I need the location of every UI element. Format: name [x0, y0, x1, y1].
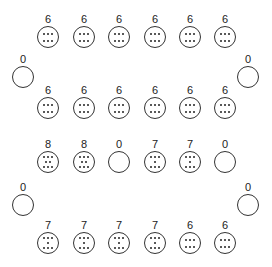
left-store	[12, 194, 34, 216]
seed-icon	[193, 40, 195, 42]
seed-icon	[87, 40, 89, 42]
seed-icon	[154, 33, 156, 35]
pit	[73, 151, 95, 173]
seed-icon	[79, 237, 81, 239]
seed-icon	[83, 33, 85, 35]
seed-count: 0	[13, 182, 33, 193]
seed-count: 7	[145, 220, 165, 231]
pit	[179, 232, 201, 254]
seed-icon	[47, 40, 49, 42]
seed-icon	[83, 237, 85, 239]
seed-icon	[87, 156, 89, 158]
seed-icon	[220, 104, 222, 106]
seed-icon	[85, 161, 87, 163]
seed-icon	[87, 247, 89, 249]
seed-icon	[51, 237, 53, 239]
seed-count: 0	[215, 139, 235, 150]
seed-icon	[193, 104, 195, 106]
seed-icon	[185, 156, 187, 158]
seed-icon	[49, 161, 51, 163]
seed-icon	[114, 237, 116, 239]
seed-icon	[51, 247, 53, 249]
seed-count: 0	[109, 139, 129, 150]
seed-icon	[228, 40, 230, 42]
seed-icon	[114, 247, 116, 249]
seed-icon	[79, 247, 81, 249]
seed-icon	[47, 156, 49, 158]
seed-icon	[83, 104, 85, 106]
pit	[73, 97, 95, 119]
seed-icon	[189, 104, 191, 106]
seed-count: 0	[238, 182, 258, 193]
seed-icon	[158, 111, 160, 113]
seed-count: 0	[238, 54, 258, 65]
seed-count: 6	[180, 14, 200, 25]
seed-icon	[189, 246, 191, 248]
seed-icon	[114, 40, 116, 42]
seed-icon	[118, 242, 120, 244]
seed-icon	[51, 33, 53, 35]
seed-icon	[81, 161, 83, 163]
seed-icon	[228, 33, 230, 35]
seed-icon	[79, 156, 81, 158]
seed-icon	[47, 104, 49, 106]
seed-icon	[83, 247, 85, 249]
seed-count: 6	[145, 85, 165, 96]
seed-icon	[189, 40, 191, 42]
pit	[214, 26, 236, 48]
seed-icon	[185, 33, 187, 35]
right-store	[237, 194, 259, 216]
seed-icon	[193, 33, 195, 35]
pit	[37, 26, 59, 48]
pit	[179, 97, 201, 119]
seed-icon	[150, 237, 152, 239]
seed-icon	[122, 237, 124, 239]
pit	[144, 26, 166, 48]
seed-count: 6	[74, 14, 94, 25]
seed-icon	[158, 166, 160, 168]
seed-icon	[43, 237, 45, 239]
seed-icon	[43, 33, 45, 35]
seed-icon	[220, 239, 222, 241]
seed-icon	[154, 104, 156, 106]
seed-icon	[122, 104, 124, 106]
seed-icon	[43, 111, 45, 113]
seed-icon	[114, 111, 116, 113]
seed-icon	[122, 111, 124, 113]
seed-icon	[79, 40, 81, 42]
pit	[214, 97, 236, 119]
seed-icon	[193, 111, 195, 113]
seed-icon	[118, 104, 120, 106]
pit	[108, 151, 130, 173]
seed-icon	[150, 40, 152, 42]
seed-icon	[224, 33, 226, 35]
seed-icon	[189, 166, 191, 168]
seed-icon	[224, 246, 226, 248]
pit	[144, 97, 166, 119]
seed-icon	[224, 111, 226, 113]
seed-icon	[47, 111, 49, 113]
seed-icon	[79, 104, 81, 106]
seed-count: 6	[145, 14, 165, 25]
pit	[37, 151, 59, 173]
seed-icon	[158, 33, 160, 35]
seed-icon	[189, 156, 191, 158]
seed-icon	[150, 33, 152, 35]
right-store	[237, 66, 259, 88]
seed-icon	[228, 239, 230, 241]
seed-icon	[51, 40, 53, 42]
seed-count: 7	[145, 139, 165, 150]
seed-count: 7	[180, 139, 200, 150]
seed-icon	[45, 161, 47, 163]
seed-icon	[158, 247, 160, 249]
seed-icon	[154, 247, 156, 249]
seed-icon	[220, 246, 222, 248]
seed-icon	[87, 166, 89, 168]
seed-icon	[185, 104, 187, 106]
seed-icon	[193, 166, 195, 168]
seed-icon	[122, 247, 124, 249]
left-store	[12, 66, 34, 88]
seed-count: 6	[38, 14, 58, 25]
seed-count: 6	[180, 220, 200, 231]
pit	[73, 26, 95, 48]
